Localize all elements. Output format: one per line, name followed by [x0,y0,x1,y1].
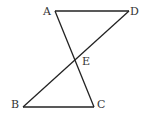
geometry-diagram: A D E B C [0,0,148,114]
label-D: D [130,5,139,18]
label-E: E [82,55,90,68]
segment-DB [23,11,129,107]
label-A: A [42,5,52,18]
label-B: B [11,98,19,111]
label-C: C [97,98,105,111]
